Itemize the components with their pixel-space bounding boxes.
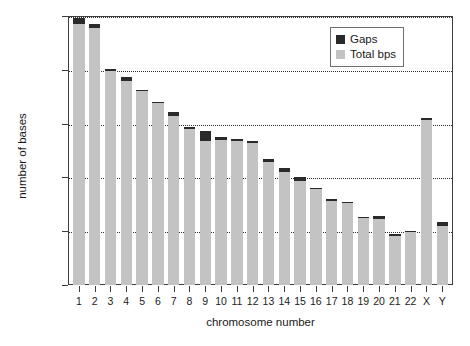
stacked-bar xyxy=(200,131,211,285)
bar-group xyxy=(166,16,182,285)
light-swatch-icon xyxy=(336,50,345,59)
x-axis-tick-label: 4 xyxy=(118,286,134,307)
bar-segment-total-bps xyxy=(405,232,416,285)
bar-group xyxy=(150,16,166,285)
bar-segment-gaps xyxy=(200,131,211,141)
bar-group xyxy=(245,16,261,285)
x-axis-tick-label: 7 xyxy=(166,286,182,307)
bar-segment-total-bps xyxy=(73,24,84,285)
bar-segment-total-bps xyxy=(326,201,337,285)
legend-item-gaps: Gaps xyxy=(336,32,396,47)
bar-group xyxy=(134,16,150,285)
stacked-bar xyxy=(121,77,132,285)
y-axis-tick-mark xyxy=(62,70,68,71)
x-axis-title: chromosome number xyxy=(68,316,453,328)
bar-segment-total-bps xyxy=(136,91,147,285)
stacked-bar xyxy=(247,141,258,285)
y-axis-tick-mark xyxy=(62,285,68,286)
bar-segment-total-bps xyxy=(310,189,321,285)
bar-segment-total-bps xyxy=(373,219,384,285)
bar-segment-total-bps xyxy=(184,129,195,285)
stacked-bar xyxy=(89,24,100,285)
x-axis-tick-label: 13 xyxy=(261,286,277,307)
bar-group xyxy=(71,16,87,285)
bar-group xyxy=(103,16,119,285)
bar-group xyxy=(434,16,450,285)
bar-group xyxy=(419,16,435,285)
bar-segment-total-bps xyxy=(231,141,242,285)
stacked-bar xyxy=(437,222,448,285)
stacked-bar xyxy=(152,102,163,285)
legend-label-gaps: Gaps xyxy=(350,32,378,47)
bar-segment-total-bps xyxy=(358,218,369,285)
bar-segment-total-bps xyxy=(200,141,211,285)
x-axis-tick-label: 19 xyxy=(355,286,371,307)
x-axis-tick-label: 8 xyxy=(182,286,198,307)
x-axis-tick-label: 11 xyxy=(229,286,245,307)
stacked-bar xyxy=(231,139,242,285)
y-axis-tick-mark xyxy=(62,124,68,125)
stacked-bar xyxy=(326,199,337,285)
bar-segment-total-bps xyxy=(89,28,100,285)
stacked-bar xyxy=(136,90,147,285)
bar-segment-total-bps xyxy=(121,81,132,285)
y-axis-tick-mark xyxy=(62,177,68,178)
chromosome-bases-chart: number of bases 123456789101112131415161… xyxy=(0,0,470,346)
x-axis-tick-label: 15 xyxy=(292,286,308,307)
bar-group xyxy=(276,16,292,285)
legend-item-total-bps: Total bps xyxy=(336,47,396,62)
bar-group xyxy=(261,16,277,285)
bar-segment-total-bps xyxy=(421,120,432,285)
x-axis-tick-label: 6 xyxy=(150,286,166,307)
x-axis-tick-label: 22 xyxy=(403,286,419,307)
stacked-bar xyxy=(184,127,195,285)
stacked-bar xyxy=(294,177,305,285)
stacked-bar xyxy=(73,18,84,285)
bar-segment-total-bps xyxy=(279,172,290,285)
bar-group xyxy=(229,16,245,285)
bar-group xyxy=(213,16,229,285)
x-axis-tick-label: 9 xyxy=(197,286,213,307)
stacked-bar xyxy=(405,231,416,285)
x-axis-tick-label: 18 xyxy=(340,286,356,307)
chart-legend: Gaps Total bps xyxy=(330,27,404,67)
x-axis-tick-label: 17 xyxy=(324,286,340,307)
stacked-bar xyxy=(342,202,353,285)
x-axis-tick-label: 16 xyxy=(308,286,324,307)
bar-segment-total-bps xyxy=(152,103,163,285)
bar-group xyxy=(308,16,324,285)
bar-group xyxy=(403,16,419,285)
y-axis-tick-mark xyxy=(62,231,68,232)
stacked-bar xyxy=(310,188,321,285)
x-axis-tick-label: X xyxy=(419,286,435,307)
x-axis-tick-label: 5 xyxy=(134,286,150,307)
bar-group xyxy=(182,16,198,285)
bar-segment-total-bps xyxy=(247,143,258,285)
stacked-bar xyxy=(279,168,290,285)
stacked-bar xyxy=(373,216,384,285)
legend-label-total-bps: Total bps xyxy=(350,47,396,62)
x-axis-tick-label: 21 xyxy=(387,286,403,307)
x-axis-tick-label: 3 xyxy=(103,286,119,307)
x-axis-tick-labels: 12345678910111213141516171819202122XY xyxy=(68,286,453,307)
bar-group xyxy=(87,16,103,285)
x-axis-tick-label: 1 xyxy=(71,286,87,307)
bar-segment-total-bps xyxy=(105,71,116,285)
dark-swatch-icon xyxy=(336,35,345,44)
stacked-bar xyxy=(215,137,226,285)
stacked-bar xyxy=(389,234,400,285)
bar-segment-total-bps xyxy=(294,181,305,285)
x-axis-tick-label: 10 xyxy=(213,286,229,307)
x-axis-tick-label: 14 xyxy=(276,286,292,307)
bar-segment-total-bps xyxy=(215,140,226,285)
stacked-bar xyxy=(168,112,179,285)
x-axis-tick-label: 20 xyxy=(371,286,387,307)
x-axis-tick-label: Y xyxy=(434,286,450,307)
bar-group xyxy=(292,16,308,285)
stacked-bar xyxy=(263,159,274,285)
bar-group xyxy=(118,16,134,285)
bar-segment-total-bps xyxy=(437,226,448,285)
stacked-bar xyxy=(421,118,432,285)
bar-segment-total-bps xyxy=(263,162,274,285)
stacked-bar xyxy=(105,69,116,285)
